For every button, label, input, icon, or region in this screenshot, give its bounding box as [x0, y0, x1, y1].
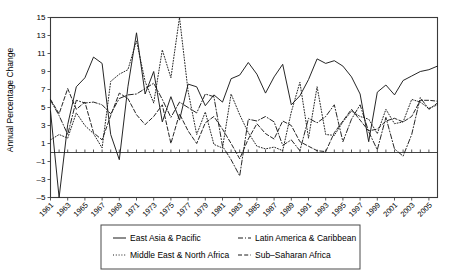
x-tick-label: 1965: [72, 201, 90, 219]
series-line: [51, 18, 438, 151]
x-tick-label: 2003: [398, 201, 416, 219]
x-tick-label: 1971: [123, 201, 141, 219]
y-tick-label: 1: [41, 139, 46, 148]
x-tick-label: 1983: [226, 201, 244, 219]
x-tick-label: 1987: [261, 201, 279, 219]
legend-label: East Asia & Pacific: [130, 233, 202, 243]
x-tick-label: 1963: [54, 201, 72, 219]
y-tick-label: –1: [37, 157, 46, 166]
legend-border: [101, 225, 360, 269]
y-axis-title: Annual Percentage Change: [5, 48, 15, 153]
y-tick-label: –5: [37, 193, 46, 202]
x-tick-label: 1981: [209, 201, 227, 219]
x-axis-ticks: 1961196319651967196919711973197519771979…: [37, 198, 434, 219]
plot-frame: [51, 18, 438, 198]
y-tick-label: 7: [41, 85, 46, 94]
y-tick-label: 11: [37, 49, 46, 58]
y-tick-label: 5: [41, 103, 46, 112]
x-tick-label: 1985: [244, 201, 262, 219]
series-lines: [51, 18, 438, 198]
y-tick-label: 13: [37, 31, 46, 40]
x-tick-label: 1989: [278, 201, 296, 219]
x-tick-label: 1979: [192, 201, 210, 219]
line-chart: Annual Percentage Change –5–3–1135791113…: [0, 0, 460, 278]
legend-label: Sub–Saharan Africa: [255, 250, 331, 260]
chart-container: Annual Percentage Change –5–3–1135791113…: [0, 0, 460, 278]
x-tick-label: 1975: [158, 201, 176, 219]
x-tick-label: 1961: [37, 201, 55, 219]
legend-label: Latin America & Caribbean: [255, 233, 356, 243]
x-tick-label: 1969: [106, 201, 124, 219]
series-line: [51, 33, 438, 198]
x-tick-label: 1997: [347, 201, 365, 219]
y-tick-label: 3: [41, 121, 46, 130]
y-tick-label: 9: [41, 67, 46, 76]
x-tick-label: 1977: [175, 201, 193, 219]
x-tick-label: 2001: [381, 201, 399, 219]
chart-legend: East Asia & PacificLatin America & Carib…: [101, 225, 360, 269]
x-tick-label: 1967: [89, 201, 107, 219]
y-tick-label: –3: [37, 175, 46, 184]
y-axis-ticks: –5–3–113579111315: [37, 13, 51, 202]
y-tick-label: 15: [37, 13, 46, 22]
x-tick-label: 1973: [140, 201, 158, 219]
x-tick-label: 1995: [330, 201, 348, 219]
x-tick-label: 1993: [312, 201, 330, 219]
x-tick-label: 2005: [416, 201, 434, 219]
legend-label: Middle East & North Africa: [130, 250, 229, 260]
x-tick-label: 1999: [364, 201, 382, 219]
x-tick-label: 1991: [295, 201, 313, 219]
